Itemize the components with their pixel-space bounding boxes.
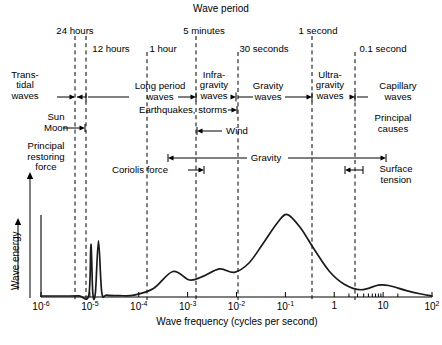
wave-energy-curve [41, 214, 432, 299]
band-arrow-row [57, 93, 368, 102]
x-tick-label: 10-6 [32, 300, 49, 313]
x-tick-label: 1 [331, 300, 337, 311]
restoring-force-arrow [27, 172, 33, 298]
x-tick-label: 10-3 [179, 300, 196, 313]
figure-graphics [0, 0, 442, 345]
x-tick-label: 10-5 [81, 300, 98, 313]
surface-tension-arrow [345, 166, 363, 174]
wave-energy-spectrum-figure: Wave period 24 hours12 hours1 hour5 minu… [0, 0, 442, 345]
x-tick-label: 102 [424, 300, 439, 313]
gravity-restoring-arrow [168, 154, 386, 162]
sun-moon-arrow [63, 124, 85, 132]
x-axis-ticks [41, 292, 432, 297]
x-axis-label: Wave frequency (cycles per second) [156, 316, 317, 327]
y-axis-label: Wave energy [10, 231, 21, 290]
wind-arrow [197, 127, 222, 135]
x-tick-label: 10-4 [130, 300, 147, 313]
x-tick-label: 10-2 [228, 300, 245, 313]
x-tick-label: 10 [378, 300, 389, 311]
earthquakes-arrow [228, 106, 237, 114]
x-tick-label: 10-1 [277, 300, 294, 313]
